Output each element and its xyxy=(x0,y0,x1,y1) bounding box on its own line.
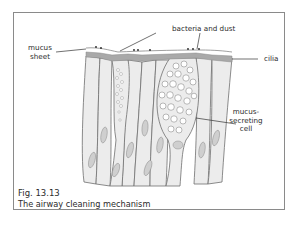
figure-caption: The airway cleaning mechanism xyxy=(18,199,150,209)
figure-number: Fig. 13.13 xyxy=(18,188,60,198)
label-mucus-sheet: mucus sheet xyxy=(22,44,58,61)
label-bacteria-and-dust: bacteria and dust xyxy=(172,25,235,34)
epithelial-cells xyxy=(82,56,232,186)
label-cilia: cilia xyxy=(264,55,278,64)
mucus-sheet xyxy=(86,48,232,52)
label-mucus-secreting-cell: mucus- secreting cell xyxy=(226,108,266,134)
label-mucus-secreting-line3: cell xyxy=(226,125,266,134)
label-mucus-sheet-line2: sheet xyxy=(22,53,58,62)
